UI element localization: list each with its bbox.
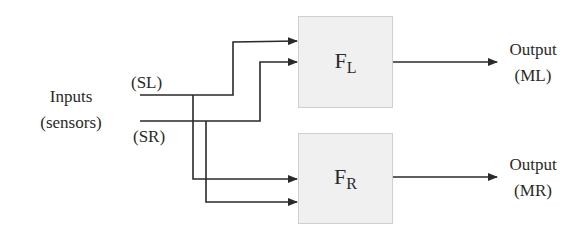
diagram-canvas: Inputs (sensors) (SL) (SR) FL FR Output … (0, 0, 584, 232)
output-ml-line1: Output (500, 40, 566, 60)
connector-sl-to-fr (193, 95, 297, 179)
output-label-ml: Output (ML) (500, 40, 566, 86)
connector-sl-to-fl (140, 41, 297, 95)
block-fr: FR (298, 133, 393, 224)
block-fl: FL (298, 16, 393, 108)
signal-label-sl: (SL) (131, 73, 162, 93)
block-fr-label: FR (334, 164, 357, 193)
signal-label-sr: (SR) (133, 127, 165, 147)
output-mr-line1: Output (500, 155, 566, 175)
output-mr-line2: (MR) (500, 181, 566, 201)
connector-sr-to-fl (140, 62, 297, 121)
inputs-label-line2: (sensors) (28, 113, 114, 133)
output-label-mr: Output (MR) (500, 155, 566, 201)
inputs-label-line1: Inputs (28, 87, 114, 107)
inputs-label: Inputs (sensors) (28, 87, 114, 133)
connector-sr-to-fr (206, 121, 297, 202)
block-fl-label: FL (334, 48, 356, 77)
output-ml-line2: (ML) (500, 66, 566, 86)
